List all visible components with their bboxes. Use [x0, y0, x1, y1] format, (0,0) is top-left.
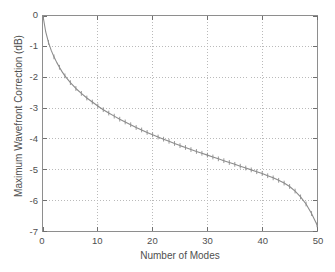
plot-area — [42, 15, 318, 232]
y-axis-title: Maximum Wavefront Correction (dB) — [13, 1, 24, 231]
chart-figure: 0-1-2-3-4-5-6-7 01020304050 Number of Mo… — [0, 0, 335, 272]
y-axis-title-wrapper: Maximum Wavefront Correction (dB) — [13, 1, 27, 231]
x-tick-label: 10 — [77, 236, 117, 246]
x-tick-label: 30 — [188, 236, 228, 246]
x-axis-title: Number of Modes — [42, 250, 318, 261]
x-axis-tick-labels: 01020304050 — [0, 236, 335, 250]
x-tick-label: 0 — [22, 236, 62, 246]
x-tick-label: 20 — [132, 236, 172, 246]
data-series-curve — [43, 16, 317, 231]
x-tick-label: 40 — [243, 236, 283, 246]
x-tick-label: 50 — [298, 236, 335, 246]
